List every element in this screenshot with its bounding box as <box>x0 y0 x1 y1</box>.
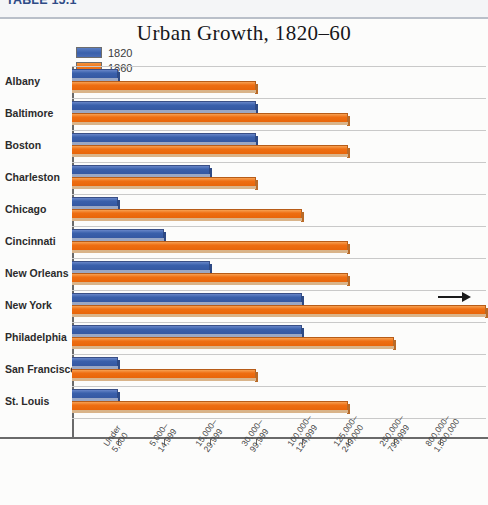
bar-shadow <box>72 282 348 285</box>
bar-shadow <box>72 346 394 349</box>
overflow-arrow-icon <box>438 292 472 302</box>
bar-1820-san-francisco <box>72 357 118 367</box>
bar-shadow <box>72 90 256 93</box>
category-label-albany: Albany <box>5 75 40 87</box>
category-label-philadelphia: Philadelphia <box>5 331 67 343</box>
bar-shadow <box>72 250 348 253</box>
bar-1860-albany <box>72 81 256 91</box>
chart-row: Chicago <box>0 194 486 226</box>
category-label-cincinnati: Cincinnati <box>5 235 56 247</box>
bar-1820-albany <box>72 69 118 79</box>
bar-shadow <box>72 410 348 413</box>
bar-1860-baltimore <box>72 113 348 123</box>
chart-row: Albany <box>0 66 486 98</box>
bar-1860-new-york <box>72 305 486 315</box>
bar-1820-charleston <box>72 165 210 175</box>
bar-1820-new-orleans <box>72 261 210 271</box>
category-label-new-orleans: New Orleans <box>5 267 69 279</box>
figure-root: TABLE 15.1 Urban Growth, 1820–60 1820 18… <box>0 0 488 505</box>
x-axis-tick-label: 250,000–799,999 <box>378 414 414 454</box>
category-label-new-york: New York <box>5 299 52 311</box>
bar-1860-cincinnati <box>72 241 348 251</box>
bar-1860-new-orleans <box>72 273 348 283</box>
table-number-label: TABLE 15.1 <box>6 0 77 7</box>
x-axis-tick-label: 15,000–29,999 <box>194 418 227 454</box>
category-label-charleston: Charleston <box>5 171 60 183</box>
bar-shadow <box>72 314 486 317</box>
chart-row: New Orleans <box>0 258 486 290</box>
bar-shadow <box>72 378 256 381</box>
chart-panel: Urban Growth, 1820–60 1820 1860 Under5,0… <box>0 19 488 505</box>
table-number-band: TABLE 15.1 <box>0 0 488 18</box>
arrow-head <box>462 292 471 302</box>
bar-shadow <box>72 154 348 157</box>
bar-1860-charleston <box>72 177 256 187</box>
plot-area: Under5,0005,000–14,99915,000–29,99930,00… <box>0 19 488 505</box>
chart-row: Cincinnati <box>0 226 486 258</box>
bar-shadow <box>72 122 348 125</box>
x-axis-tick-label: Under5,000 <box>102 424 131 454</box>
bar-1820-new-york <box>72 293 302 303</box>
chart-row: Boston <box>0 130 486 162</box>
bar-1860-st-louis <box>72 401 348 411</box>
bar-1860-san-francisco <box>72 369 256 379</box>
bar-1860-chicago <box>72 209 302 219</box>
chart-row: San Francisco <box>0 354 486 386</box>
bar-1820-chicago <box>72 197 118 207</box>
category-label-st-louis: St. Louis <box>5 395 49 407</box>
bar-shadow <box>72 218 302 221</box>
bar-1820-philadelphia <box>72 325 302 335</box>
chart-row: Charleston <box>0 162 486 194</box>
x-axis-tick-label: 30,000–99,999 <box>240 418 273 454</box>
x-axis-tick-label: 125,000–249,000 <box>332 414 368 454</box>
category-label-baltimore: Baltimore <box>5 107 53 119</box>
chart-row: Philadelphia <box>0 322 486 354</box>
category-label-boston: Boston <box>5 139 41 151</box>
category-label-chicago: Chicago <box>5 203 46 215</box>
chart-row: Baltimore <box>0 98 486 130</box>
bar-1820-boston <box>72 133 256 143</box>
x-axis-tick-label: 5,000–14,999 <box>148 421 179 453</box>
chart-row: New York <box>0 290 486 322</box>
arrow-shaft <box>438 296 464 298</box>
bar-1820-st-louis <box>72 389 118 399</box>
bar-1860-philadelphia <box>72 337 394 347</box>
x-axis-tick-label: 100,000–124,999 <box>286 414 322 454</box>
gridline <box>72 418 486 419</box>
chart-row: St. Louis <box>0 386 486 418</box>
bar-1820-baltimore <box>72 101 256 111</box>
bar-1860-boston <box>72 145 348 155</box>
category-label-san-francisco: San Francisco <box>5 363 77 375</box>
bar-1820-cincinnati <box>72 229 164 239</box>
bar-shadow <box>72 186 256 189</box>
